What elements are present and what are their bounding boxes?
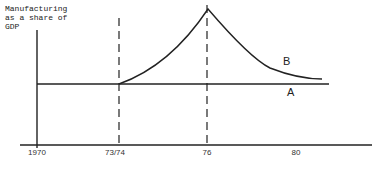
x-tick-80: 80 xyxy=(292,148,301,157)
series-b-label: B xyxy=(283,55,290,67)
series-b-curve xyxy=(119,9,322,84)
x-tick-76: 76 xyxy=(203,148,212,157)
chart-plot xyxy=(0,0,380,169)
x-tick-1970: 1970 xyxy=(28,148,46,157)
series-a-label: A xyxy=(287,86,294,98)
x-tick-7374: 73/74 xyxy=(105,148,125,157)
